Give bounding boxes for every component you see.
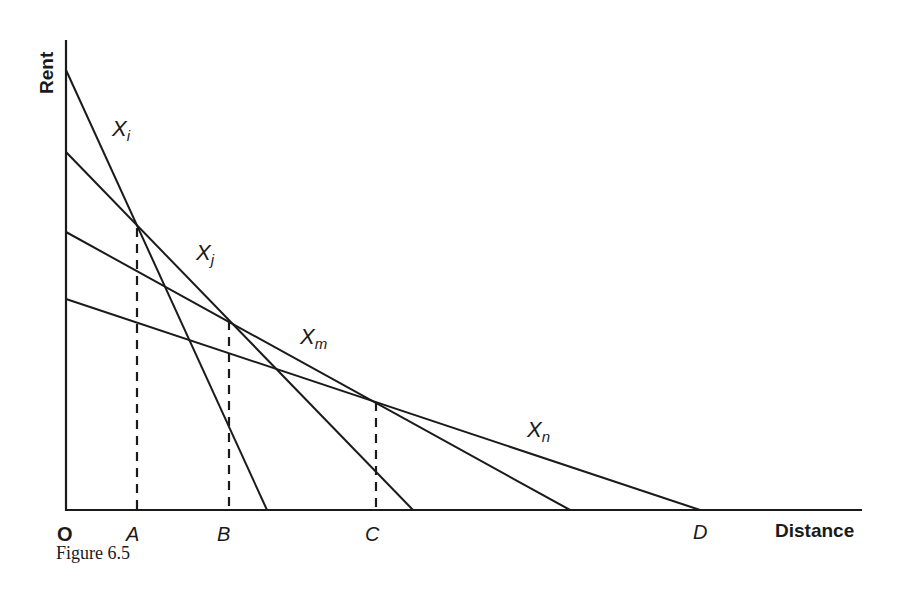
point-label-c: C xyxy=(365,523,380,545)
point-label-d: D xyxy=(693,521,707,543)
point-label-a: A xyxy=(125,523,139,545)
point-label-b: B xyxy=(217,523,230,545)
curve-label-xi: Xi xyxy=(111,116,131,144)
curve-label-xj: Xj xyxy=(195,240,215,268)
curve-label-xm: Xm xyxy=(299,324,327,352)
origin-label: O xyxy=(57,523,73,545)
x-axis-label: Distance xyxy=(775,520,854,541)
y-axis-label: Rent xyxy=(36,51,57,94)
figure-caption: Figure 6.5 xyxy=(56,543,130,564)
curve-label-xn: Xn xyxy=(526,417,550,445)
bid-rent-line-xi xyxy=(66,70,267,510)
bid-rent-diagram: Rent Distance O A B C D Xi Xj Xm Xn Figu… xyxy=(0,0,899,602)
bid-rent-line-xj xyxy=(66,152,413,510)
bid-rent-line-xm xyxy=(66,232,570,510)
